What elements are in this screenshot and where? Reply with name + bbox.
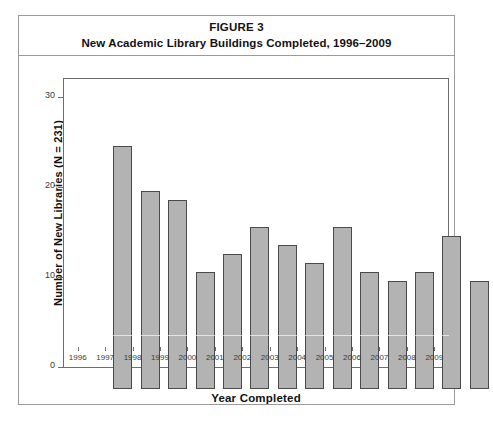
bar-rect [333,227,352,389]
x-tick-line-1997 [105,347,106,351]
bar-rect [223,254,242,389]
x-tick-line-2005 [325,347,326,351]
y-tick-label: 20 [45,180,55,190]
x-tick-label-2009: 2009 [414,353,454,362]
bar-rect [250,227,269,389]
plot-frame [63,78,449,368]
x-tick-line-1998 [133,347,134,351]
x-tick-line-2006 [352,347,353,351]
x-tick-line-1996 [78,347,79,351]
bars-layer [109,101,493,389]
x-tick-line-2008 [407,347,408,351]
x-tick-line-2002 [242,347,243,351]
y-tick-line [58,187,63,188]
bar-rect [305,263,324,389]
x-tick-line-2001 [215,347,216,351]
y-tick-0: 0 [19,367,63,368]
y-tick-label: 30 [45,90,55,100]
figure-container: FIGURE 3 New Academic Library Buildings … [18,15,455,405]
x-tick-line-2003 [270,347,271,351]
y-tick-20: 20 [19,187,63,188]
y-tick-line [58,97,63,98]
figure-title-band: FIGURE 3 New Academic Library Buildings … [19,16,454,56]
y-tick-line [58,367,63,368]
x-tick-line-2009 [434,347,435,351]
bar-rect [415,272,434,389]
y-tick-line [58,277,63,278]
y-tick-30: 30 [19,97,63,98]
bar-rect [360,272,379,389]
x-axis-title: Year Completed [63,392,449,404]
bar-rect [196,272,215,389]
scan-artifact-line [65,335,449,336]
bar-rect [470,281,489,389]
y-tick-10: 10 [19,277,63,278]
bar-rect [278,245,297,389]
x-tick-line-1999 [160,347,161,351]
bar-rect [442,236,461,389]
figure-number-label: FIGURE 3 [209,20,264,35]
x-tick-line-2000 [187,347,188,351]
chart-area: Number of New Libraries (N = 231) 010203… [19,57,456,405]
x-tick-line-2007 [379,347,380,351]
x-tick-line-2004 [297,347,298,351]
figure-title-text: New Academic Library Buildings Completed… [81,35,391,51]
y-tick-label: 0 [50,360,55,370]
y-tick-label: 10 [45,270,55,280]
